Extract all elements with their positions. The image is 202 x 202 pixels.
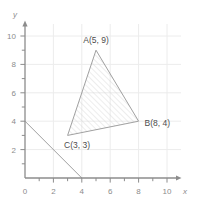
y-tick-label-8: 8	[12, 60, 17, 69]
x-tick-label-6: 6	[108, 187, 113, 196]
x-tick-label-4: 4	[80, 187, 85, 196]
x-axis-tick-labels: 0 2 4 6 8 10	[23, 187, 172, 196]
y-tick-label-10: 10	[7, 32, 16, 41]
x-tick-label-8: 8	[136, 187, 141, 196]
x-tick-label-0: 0	[23, 187, 28, 196]
vertex-label-b: B(8, 4)	[145, 118, 171, 128]
coordinate-plane-svg: 0 2 4 6 8 10 2 4 6 8 10 x y A(5, 9) B(8,…	[0, 0, 202, 202]
x-axis-label: x	[182, 187, 188, 196]
vertex-label-a: A(5, 9)	[83, 35, 109, 45]
x-tick-label-10: 10	[163, 187, 172, 196]
y-axis-ticks	[20, 36, 25, 164]
x-axis-ticks	[39, 178, 167, 183]
vertex-label-c: C(3, 3)	[64, 140, 90, 150]
x-tick-label-2: 2	[51, 187, 56, 196]
y-tick-label-2: 2	[12, 146, 17, 155]
y-axis-label: y	[12, 10, 18, 19]
y-tick-label-4: 4	[12, 117, 17, 126]
y-tick-label-6: 6	[12, 89, 17, 98]
y-axis-tick-labels: 2 4 6 8 10	[7, 32, 16, 155]
coordinate-plane-figure: 0 2 4 6 8 10 2 4 6 8 10 x y A(5, 9) B(8,…	[0, 0, 202, 202]
